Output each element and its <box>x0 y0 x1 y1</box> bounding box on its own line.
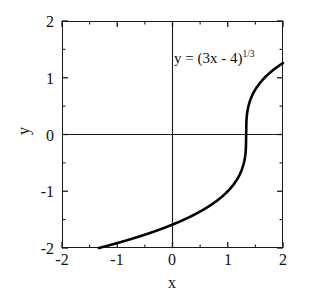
y-axis-title: y <box>15 91 33 171</box>
y-tick-label: 2 <box>14 14 54 30</box>
x-axis-title: x <box>132 274 212 292</box>
data-curve <box>99 63 283 248</box>
x-tick-label: -1 <box>97 252 137 268</box>
equation-exponent: 1/3 <box>242 49 254 59</box>
x-tick-label: 0 <box>152 252 192 268</box>
equation-base: y = (3x - 4) <box>174 50 242 66</box>
y-tick-label: -2 <box>14 241 54 257</box>
equation-annotation: y = (3x - 4)1/3 <box>174 50 255 66</box>
y-tick-label: 1 <box>14 71 54 87</box>
x-tick-label: 1 <box>208 252 248 268</box>
y-tick-label: -1 <box>14 184 54 200</box>
chart-figure: -2 -1 0 1 2 2 1 0 -1 -2 x y y = (3x - 4)… <box>0 0 310 302</box>
x-tick-label: 2 <box>263 252 303 268</box>
